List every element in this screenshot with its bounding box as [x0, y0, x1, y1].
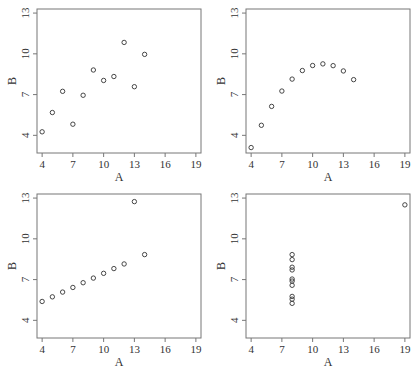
x-tick: 16 — [160, 153, 172, 170]
svg-text:7: 7 — [279, 158, 285, 170]
svg-text:13: 13 — [228, 192, 240, 204]
y-tick: 13 — [228, 7, 246, 19]
data-point — [290, 297, 294, 301]
x-tick: 19 — [399, 153, 411, 170]
svg-text:4: 4 — [39, 343, 45, 355]
data-point — [321, 62, 325, 66]
data-point — [112, 74, 116, 78]
data-point — [71, 122, 75, 126]
data-point — [91, 276, 95, 280]
scatter-panel-2: 4710131619471013AB — [209, 0, 418, 184]
x-axis-label: A — [324, 355, 333, 369]
plot-frame — [37, 9, 201, 153]
data-point — [50, 110, 54, 114]
y-tick: 13 — [19, 7, 37, 19]
data-point — [290, 257, 294, 261]
y-tick: 4 — [228, 132, 246, 138]
data-point — [60, 290, 64, 294]
data-point — [351, 77, 355, 81]
svg-text:7: 7 — [70, 158, 76, 170]
scatter-panel-1: 4710131619471013AB — [0, 0, 209, 184]
x-axis-label: A — [324, 170, 333, 184]
svg-text:13: 13 — [19, 7, 31, 19]
y-tick: 4 — [228, 317, 246, 323]
svg-text:4: 4 — [248, 158, 254, 170]
y-tick: 10 — [228, 233, 246, 245]
data-point — [290, 265, 294, 269]
plot-frame — [246, 9, 410, 153]
x-tick: 13 — [129, 338, 141, 355]
data-point — [300, 68, 304, 72]
x-tick: 16 — [160, 338, 172, 355]
data-point — [249, 145, 253, 149]
svg-text:16: 16 — [160, 158, 172, 170]
data-point — [132, 85, 136, 89]
svg-text:7: 7 — [19, 91, 31, 97]
y-tick: 7 — [19, 91, 37, 97]
svg-text:13: 13 — [338, 158, 350, 170]
svg-text:4: 4 — [19, 132, 31, 138]
x-tick: 13 — [338, 338, 350, 355]
y-axis-label: B — [5, 262, 19, 270]
data-point — [310, 63, 314, 67]
svg-text:4: 4 — [39, 158, 45, 170]
data-point — [331, 63, 335, 67]
scatter-panel-4: 4710131619471013AB — [209, 185, 418, 369]
y-tick: 13 — [19, 192, 37, 204]
svg-text:16: 16 — [160, 343, 172, 355]
data-point — [269, 104, 273, 108]
x-tick: 10 — [98, 338, 110, 355]
svg-text:10: 10 — [307, 158, 319, 170]
y-tick: 13 — [228, 192, 246, 204]
x-tick: 13 — [129, 153, 141, 170]
y-tick: 7 — [228, 91, 246, 97]
data-point — [112, 266, 116, 270]
data-point — [101, 78, 105, 82]
svg-text:13: 13 — [129, 158, 141, 170]
x-tick: 16 — [369, 338, 381, 355]
data-point — [122, 40, 126, 44]
x-tick: 7 — [279, 153, 285, 170]
x-tick: 4 — [39, 338, 45, 355]
svg-text:10: 10 — [19, 233, 31, 245]
x-tick: 16 — [369, 153, 381, 170]
x-axis-label: A — [115, 355, 124, 369]
svg-text:13: 13 — [129, 343, 141, 355]
x-tick: 4 — [248, 153, 254, 170]
svg-text:10: 10 — [98, 158, 110, 170]
svg-text:16: 16 — [369, 343, 381, 355]
x-tick: 10 — [307, 153, 319, 170]
x-axis-label: A — [115, 170, 124, 184]
svg-text:10: 10 — [307, 343, 319, 355]
svg-text:13: 13 — [228, 7, 240, 19]
y-tick: 10 — [228, 48, 246, 60]
svg-text:4: 4 — [248, 343, 254, 355]
svg-text:19: 19 — [190, 343, 202, 355]
data-point — [290, 252, 294, 256]
svg-text:7: 7 — [70, 343, 76, 355]
y-tick: 7 — [228, 276, 246, 282]
x-tick: 7 — [70, 338, 76, 355]
svg-text:10: 10 — [228, 233, 240, 245]
data-point — [40, 299, 44, 303]
svg-text:13: 13 — [338, 343, 350, 355]
svg-text:7: 7 — [228, 276, 240, 282]
data-point — [50, 295, 54, 299]
data-point — [290, 301, 294, 305]
y-axis-label: B — [214, 262, 228, 270]
scatter-panel-3: 4710131619471013AB — [0, 185, 209, 369]
plot-frame — [37, 194, 201, 338]
svg-text:19: 19 — [399, 343, 411, 355]
data-point — [259, 123, 263, 127]
svg-text:19: 19 — [190, 158, 202, 170]
x-tick: 19 — [190, 338, 202, 355]
svg-text:10: 10 — [19, 48, 31, 60]
data-point — [101, 271, 105, 275]
y-tick: 4 — [19, 317, 37, 323]
svg-text:16: 16 — [369, 158, 381, 170]
data-point — [341, 69, 345, 73]
svg-text:10: 10 — [228, 48, 240, 60]
x-tick: 7 — [279, 338, 285, 355]
svg-text:4: 4 — [228, 317, 240, 323]
y-tick: 10 — [19, 233, 37, 245]
